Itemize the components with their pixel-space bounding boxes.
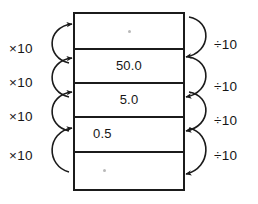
multiply-arrow-4 <box>52 128 72 172</box>
faint-dot-icon <box>103 169 106 172</box>
table-row <box>75 151 183 189</box>
table-row: 5.0 <box>75 82 183 116</box>
multiply-label-4: ×10 <box>9 148 33 163</box>
divide-label-4: ÷10 <box>214 148 237 163</box>
multiply-label-3: ×10 <box>9 109 33 124</box>
row-divider-1 <box>75 48 183 50</box>
cell-value-2: 50.0 <box>75 58 183 73</box>
table-row: 0.5 <box>75 116 183 151</box>
cell-value-4: 0.5 <box>75 126 183 141</box>
multiply-label-2: ×10 <box>9 75 33 90</box>
multiply-label-1: ×10 <box>9 41 33 56</box>
divide-label-1: ÷10 <box>214 37 237 52</box>
row-divider-4 <box>75 151 183 153</box>
place-value-table: 50.0 5.0 0.5 <box>73 12 185 191</box>
divide-label-2: ÷10 <box>214 79 237 94</box>
divide-label-3: ÷10 <box>214 113 237 128</box>
multiply-arrow-2 <box>52 58 72 97</box>
divide-arrow-1 <box>186 17 206 57</box>
row-divider-2 <box>75 82 183 84</box>
place-value-diagram: 50.0 5.0 0.5 ×10 ×10 ×10 ×10 ÷10 ÷10 ÷10… <box>0 0 258 204</box>
cell-value-3: 5.0 <box>75 92 183 107</box>
divide-arrow-4 <box>186 128 206 174</box>
divide-arrow-3 <box>186 92 206 131</box>
faint-dot-icon <box>128 30 131 33</box>
row-divider-3 <box>75 116 183 118</box>
divide-arrow-2 <box>186 57 206 97</box>
multiply-arrow-1 <box>52 24 72 63</box>
table-row: 50.0 <box>75 48 183 82</box>
multiply-arrow-3 <box>52 92 72 131</box>
